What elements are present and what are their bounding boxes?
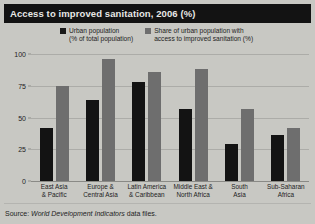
chart-figure: Access to improved sanitation, 2006 (%) … [0, 0, 315, 224]
legend-swatch-icon [60, 28, 66, 34]
legend-item-label: Urban population (% of total population) [69, 27, 133, 43]
x-axis-tick-label: East Asia & Pacific [31, 183, 77, 203]
page-title: Access to improved sanitation, 2006 (%) [10, 8, 196, 19]
bar [56, 86, 69, 181]
source-publication: World Development Indicators [31, 210, 125, 217]
y-axis-tick-label: 100 [14, 51, 26, 58]
legend-item-label: Share of urban population with access to… [154, 27, 253, 43]
bar [102, 59, 115, 181]
bar [179, 109, 192, 181]
bar [148, 72, 161, 181]
legend-item-urban-population: Urban population (% of total population) [60, 27, 133, 49]
bar-group [77, 54, 123, 181]
bar [225, 144, 238, 181]
y-axis-tick-label: 25 [18, 146, 26, 153]
bar-group [124, 54, 170, 181]
source-suffix: data files. [125, 210, 157, 217]
x-axis-tick-label: Middle East & North Africa [170, 183, 216, 203]
chart-title-bar: Access to improved sanitation, 2006 (%) [4, 4, 311, 23]
legend-item-sanitation-share: Share of urban population with access to… [145, 27, 253, 49]
bar [195, 69, 208, 181]
x-axis-tick-label: Sub-Saharan Africa [263, 183, 309, 203]
source-note: Source: World Development Indicators dat… [5, 210, 157, 217]
bar-group [170, 54, 216, 181]
y-axis: 0255075100 [6, 54, 28, 182]
plot-area [31, 54, 309, 182]
bar-group [31, 54, 77, 181]
x-axis-labels: East Asia & PacificEurope & Central Asia… [31, 183, 309, 203]
bar [86, 100, 99, 181]
bar [287, 128, 300, 181]
bar [271, 135, 284, 181]
chart-legend: Urban population (% of total population)… [60, 27, 311, 49]
bar-groups [31, 54, 309, 181]
source-prefix: Source: [5, 210, 31, 217]
bar [132, 82, 145, 181]
y-axis-tick-label: 0 [22, 178, 26, 185]
x-axis-tick-label: South Asia [216, 183, 262, 203]
y-axis-tick-label: 75 [18, 82, 26, 89]
bar [40, 128, 53, 181]
footer-divider [4, 203, 311, 204]
bar-group [263, 54, 309, 181]
x-axis-tick-label: Latin America & Caribbean [124, 183, 170, 203]
bar [241, 109, 254, 181]
legend-swatch-icon [145, 28, 151, 34]
y-axis-tick-label: 50 [18, 114, 26, 121]
bar-group [216, 54, 262, 181]
x-axis-tick-label: Europe & Central Asia [77, 183, 123, 203]
plot-wrapper: 0255075100 [6, 54, 309, 182]
